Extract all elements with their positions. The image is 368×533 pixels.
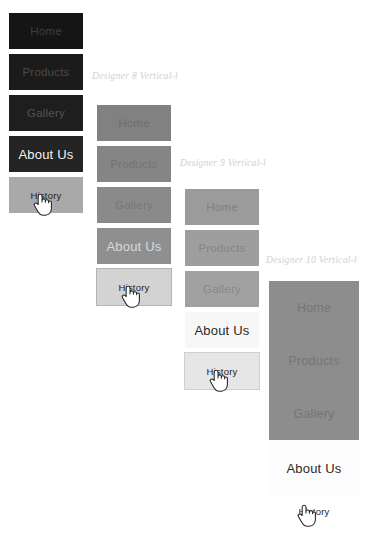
vertical-menu-group-4: Home Products Gallery About Us History	[269, 281, 359, 526]
menu-item-about-us[interactable]: About Us	[269, 440, 359, 496]
menu-item-label: Home	[118, 117, 149, 129]
menu-item-label: History	[119, 282, 150, 293]
menu-item-label: Home	[297, 301, 331, 315]
menu-item-about-us[interactable]: About Us	[96, 227, 172, 265]
menu-item-about-us[interactable]: About Us	[8, 135, 84, 173]
menu-item-gallery[interactable]: Gallery	[184, 270, 260, 308]
vertical-menu-group-3: Home Products Gallery About Us History	[184, 188, 260, 390]
menu-item-home[interactable]: Home	[96, 104, 172, 142]
menu-item-label: Gallery	[115, 199, 153, 211]
menu-item-label: Home	[30, 25, 61, 37]
menu-item-label: Products	[111, 158, 158, 170]
menu-item-label: History	[207, 366, 238, 377]
menu-item-products[interactable]: Products	[8, 53, 84, 91]
menu-item-label: Products	[199, 242, 246, 254]
menu-item-about-us[interactable]: About Us	[184, 311, 260, 349]
menu-item-products[interactable]: Products	[269, 334, 359, 387]
menu-item-label: Home	[206, 201, 237, 213]
menu-item-label: About Us	[286, 461, 341, 476]
menu-item-history[interactable]: History	[184, 352, 260, 390]
vertical-menu-group-2: Home Products Gallery About Us History	[96, 104, 172, 306]
menu-item-label: Gallery	[203, 283, 241, 295]
menu-item-products[interactable]: Products	[96, 145, 172, 183]
menu-item-label: About Us	[106, 239, 161, 254]
menu-item-label: Products	[289, 354, 340, 368]
menu-item-gallery[interactable]: Gallery	[8, 94, 84, 132]
menu-item-home[interactable]: Home	[8, 12, 84, 50]
menu-item-home[interactable]: Home	[269, 281, 359, 334]
menu-item-history[interactable]: History	[8, 176, 84, 214]
menu-item-label: Gallery	[294, 407, 335, 421]
menu-item-label: Gallery	[27, 107, 65, 119]
menu-item-label: Products	[23, 66, 70, 78]
group-caption-designer-9: Designer 9 Vertical-l	[180, 158, 266, 168]
group-caption-designer-10: Designer 10 Vertical-l	[266, 255, 357, 265]
menu-item-label: History	[31, 190, 62, 201]
menu-item-gallery[interactable]: Gallery	[96, 186, 172, 224]
menu-item-label: About Us	[194, 323, 249, 338]
menu-item-label: History	[299, 506, 330, 517]
menu-item-gallery[interactable]: Gallery	[269, 387, 359, 440]
design-canvas: Home Products Gallery About Us History D…	[0, 0, 368, 533]
group-caption-designer-8: Designer 8 Vertical-l	[92, 71, 178, 81]
vertical-menu-group-1: Home Products Gallery About Us History	[8, 12, 84, 214]
menu-item-history[interactable]: History	[269, 496, 359, 526]
menu-item-label: About Us	[18, 147, 73, 162]
menu-item-home[interactable]: Home	[184, 188, 260, 226]
menu-item-history[interactable]: History	[96, 268, 172, 306]
menu-item-products[interactable]: Products	[184, 229, 260, 267]
